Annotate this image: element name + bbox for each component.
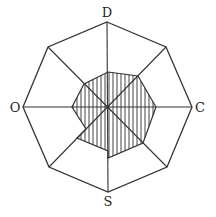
radar-diagram: D C S O [0,0,216,217]
axis-label-c: C [195,100,205,115]
axis-label-s: S [104,194,113,209]
axis-label-d: D [102,5,112,20]
axis-label-o: O [10,100,21,115]
profile-area [72,72,156,158]
